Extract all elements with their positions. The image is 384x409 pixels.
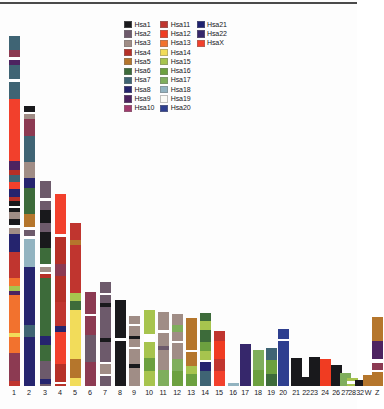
legend-item-hsa13[interactable]: Hsa13: [160, 39, 190, 48]
bar-11-segment-0: [158, 312, 170, 330]
legend-item-hsa22[interactable]: Hsa22: [197, 29, 227, 38]
legend-swatch-hsa10: [124, 105, 132, 112]
x-tick-1: 1: [7, 388, 21, 398]
bar-12-segment-5: [172, 359, 184, 371]
bar-1-segment-26: [9, 295, 21, 333]
legend-swatch-hsa13: [160, 40, 168, 47]
bar-11: [158, 312, 170, 386]
legend-item-hsa9[interactable]: Hsa9: [124, 94, 154, 103]
legend-item-hsa19[interactable]: Hsa19: [160, 94, 190, 103]
bar-3-segment-0: [40, 181, 52, 198]
bar-19: [266, 348, 278, 386]
x-tick-4: 4: [53, 388, 67, 398]
legend-item-hsa15[interactable]: Hsa15: [160, 57, 190, 66]
bar-7-segment-2: [100, 295, 112, 303]
legend-item-hsa2[interactable]: Hsa2: [124, 29, 154, 38]
x-tick-13: 13: [184, 388, 198, 398]
bar-9-segment-8: [129, 368, 141, 386]
bar-19-segment-1: [266, 360, 278, 374]
bar-1-segment-11: [9, 182, 21, 189]
bar-24: [320, 359, 332, 386]
legend-item-hsa18[interactable]: Hsa18: [160, 85, 190, 94]
legend-swatch-hsa4: [124, 49, 132, 56]
bar-2-segment-3: [24, 119, 36, 136]
legend-item-hsa1[interactable]: Hsa1: [124, 20, 154, 29]
bar-2-segment-7: [24, 188, 36, 214]
legend-swatch-hsa16: [160, 68, 168, 75]
bar-12-segment-0: [172, 314, 184, 325]
bar-1-segment-7: [9, 99, 21, 161]
legend-label-hsa2: Hsa2: [135, 30, 151, 38]
legend-item-hsa8[interactable]: Hsa8: [124, 85, 154, 94]
bar-13-segment-2: [186, 352, 198, 366]
bar-14: [200, 313, 212, 386]
legend-item-hsa6[interactable]: Hsa6: [124, 66, 154, 75]
bar-10-segment-0: [144, 310, 156, 334]
legend-label-hsa8: Hsa8: [135, 86, 151, 94]
legend-item-hsa12[interactable]: Hsa12: [160, 29, 190, 38]
bar-10-segment-1: [144, 334, 156, 342]
bar-4-segment-3: [55, 264, 67, 276]
bar-13-segment-0: [186, 318, 198, 350]
bar-4-segment-7: [55, 332, 67, 364]
legend-column-3: Hsa21Hsa22HsaX: [197, 20, 227, 113]
bar-14-segment-3: [200, 342, 212, 351]
legend-swatch-hsa17: [160, 77, 168, 84]
legend-label-hsa7: Hsa7: [135, 76, 151, 84]
legend-label-hsa15: Hsa15: [171, 58, 191, 66]
bar-5-segment-2: [70, 245, 82, 293]
legend-label-hsa5: Hsa5: [135, 58, 151, 66]
bar-5-segment-7: [70, 378, 82, 386]
bar-2-segment-13: [24, 267, 36, 325]
bar-9-segment-6: [129, 349, 141, 364]
bar-1-segment-12: [9, 189, 21, 197]
legend-swatch-hsa3: [124, 40, 132, 47]
bar-20-segment-2: [278, 341, 290, 386]
bar-23: [309, 357, 321, 386]
bar-15-segment-0: [214, 331, 226, 341]
bar-1-segment-0: [9, 36, 21, 50]
legend-label-hsa3: Hsa3: [135, 39, 151, 47]
legend-item-hsa11[interactable]: Hsa11: [160, 20, 190, 29]
legend-item-hsa10[interactable]: Hsa10: [124, 104, 154, 113]
legend-item-hsa17[interactable]: Hsa17: [160, 76, 190, 85]
bar-3-segment-5: [40, 232, 52, 248]
bar-13-segment-4: [186, 374, 198, 386]
bar-6-segment-2: [85, 316, 97, 335]
x-tick-Z: Z: [370, 388, 384, 398]
bar-19-segment-0: [266, 348, 278, 360]
legend-item-hsa14[interactable]: Hsa14: [160, 48, 190, 57]
legend-item-hsax[interactable]: HsaX: [197, 39, 227, 48]
legend-item-hsa21[interactable]: Hsa21: [197, 20, 227, 29]
legend-item-hsa3[interactable]: Hsa3: [124, 39, 154, 48]
bar-5-segment-4: [70, 301, 82, 310]
legend-label-hsa14: Hsa14: [171, 49, 191, 57]
legend-label-hsa1: Hsa1: [135, 21, 151, 29]
bar-14-segment-0: [200, 313, 212, 321]
bar-9-segment-2: [129, 326, 141, 336]
x-tick-7: 7: [98, 388, 112, 398]
x-tick-17: 17: [238, 388, 252, 398]
bar-6-segment-0: [85, 292, 97, 314]
bar-10-segment-2: [144, 342, 156, 358]
bar-3-segment-6: [40, 248, 52, 264]
bar-13: [186, 318, 198, 386]
legend-item-hsa4[interactable]: Hsa4: [124, 48, 154, 57]
legend-item-hsa5[interactable]: Hsa5: [124, 57, 154, 66]
legend-swatch-hsa18: [160, 86, 168, 93]
bar-9-segment-0: [129, 316, 141, 324]
legend-swatch-hsa19: [160, 95, 168, 102]
bar-3-segment-4: [40, 223, 52, 232]
legend-item-hsa7[interactable]: Hsa7: [124, 76, 154, 85]
bar-5-segment-5: [70, 310, 82, 359]
bar-11-segment-2: [158, 333, 170, 346]
legend-item-hsa16[interactable]: Hsa16: [160, 66, 190, 75]
legend-label-hsa11: Hsa11: [171, 21, 190, 29]
bar-12-segment-6: [172, 371, 184, 386]
bar-10-segment-4: [144, 371, 156, 386]
bar-10-segment-3: [144, 358, 156, 371]
legend-item-hsa20[interactable]: Hsa20: [160, 104, 190, 113]
bar-1-segment-28: [9, 337, 21, 353]
legend-label-hsa21: Hsa21: [207, 21, 227, 29]
bar-1-segment-1: [9, 50, 21, 57]
